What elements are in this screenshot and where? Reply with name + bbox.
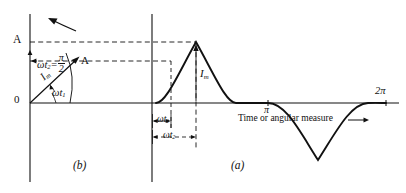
angle-omega-t1-subscript: 1	[62, 91, 65, 98]
time-axis-direction-arrowhead-icon	[364, 118, 370, 123]
omega-t2-leader-arrowhead-icon	[31, 59, 36, 64]
ccw-rotation-arrowhead-icon	[48, 18, 58, 25]
origin-label: 0	[14, 94, 20, 105]
quarter-angle-fraction: π2	[58, 53, 65, 74]
quarter-angle-numerator: π	[58, 53, 65, 63]
dimension-omega-t2-symbol: ωt	[163, 130, 172, 140]
peak-amplitude-subscript: m	[204, 73, 209, 80]
dimension-omega-t1-symbol: ωt	[157, 114, 166, 124]
time-axis-label: Time or angular measure	[238, 114, 333, 124]
quarter-angle-symbol: ωt	[37, 59, 47, 70]
angle-omega-t1-label: ωt1	[52, 88, 66, 99]
angle-omega-t1-symbol: ωt	[52, 87, 62, 98]
quarter-angle-equals: =	[51, 59, 58, 70]
omega-t2-dim-left-arrow-icon	[153, 135, 158, 139]
dimension-omega-t1-label: ωt1	[157, 115, 169, 125]
phasor-sweep-arc	[66, 53, 72, 103]
amplitude-axis-label: A	[13, 34, 21, 46]
omega-t2-dim-right-arrow-icon	[191, 135, 196, 139]
phasor-tip-label: A	[81, 55, 89, 66]
dimension-omega-t1-subscript: 1	[166, 118, 169, 124]
dimension-omega-t2-label: ωt2	[163, 131, 175, 141]
amplitude-level-arrow-icon	[28, 50, 33, 55]
quarter-angle-denominator: 2	[58, 63, 65, 74]
dimension-omega-t2-subscript: 2	[172, 134, 175, 140]
quarter-angle-label: ωt2=π2	[37, 53, 65, 74]
peak-amplitude-label: Im	[200, 68, 209, 80]
caption-right: (a)	[231, 160, 244, 172]
sine-wave-curve	[156, 42, 386, 160]
phasor-sine-figure: A 0 Im ωt1 ωt2=π2 A (b) Im ωt1 ωt2 π 2π …	[0, 0, 406, 193]
caption-left: (b)	[73, 160, 86, 172]
tick-label-two-pi: 2π	[375, 86, 386, 97]
